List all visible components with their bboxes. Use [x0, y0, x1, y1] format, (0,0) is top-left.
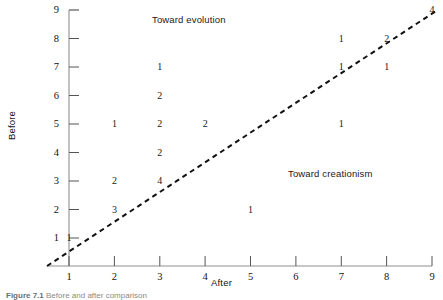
data-point-label: 2	[153, 119, 167, 129]
data-point-label: 3	[107, 205, 121, 215]
data-point-label: 2	[380, 34, 394, 44]
data-point-label: 1	[334, 62, 348, 72]
figure-caption: Figure 7.1 Before and after comparison	[6, 291, 443, 300]
data-point-label: 1	[107, 119, 121, 129]
data-point-label: 4	[153, 176, 167, 186]
y-tick-label-8: 8	[43, 34, 59, 45]
y-tick-label-6: 6	[43, 91, 59, 102]
caption-text: Before and after comparison	[46, 291, 147, 300]
data-point-label: 2	[198, 119, 212, 129]
y-tick-label-1: 1	[43, 233, 59, 244]
y-tick-label-3: 3	[43, 176, 59, 187]
data-point-label: 4	[425, 5, 439, 15]
x-axis-title: After	[0, 277, 443, 288]
data-point-label: 1	[153, 62, 167, 72]
data-point-label: 1	[334, 119, 348, 129]
y-tick-label-7: 7	[43, 62, 59, 73]
data-point-label: 2	[153, 91, 167, 101]
y-axis-title: Before	[6, 102, 17, 150]
data-point-label: 2	[153, 148, 167, 158]
data-point-label: 1	[62, 233, 76, 243]
x-tick-marks	[69, 256, 432, 266]
y-tick-label-2: 2	[43, 205, 59, 216]
data-point-label: 1	[244, 205, 258, 215]
data-point-label: 1	[334, 34, 348, 44]
annotation-toward-evolution: Toward evolution	[152, 14, 226, 25]
y-tick-label-5: 5	[43, 119, 59, 130]
y-tick-label-4: 4	[43, 148, 59, 159]
y-tick-label-9: 9	[43, 5, 59, 16]
data-point-label: 1	[380, 62, 394, 72]
caption-label: Figure 7.1	[6, 291, 44, 300]
identity-reference-line	[47, 11, 436, 266]
annotation-toward-creationism: Toward creationism	[288, 168, 373, 179]
data-point-label: 2	[107, 176, 121, 186]
y-tick-marks	[69, 10, 79, 238]
